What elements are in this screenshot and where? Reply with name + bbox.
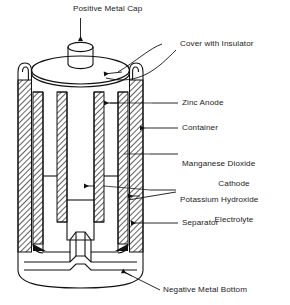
label-separator: Separator (182, 218, 218, 228)
label-negative-metal-bottom: Negative Metal Bottom (163, 285, 247, 295)
label-electrolyte-line-1: Potassium Hydroxide (180, 195, 288, 205)
battery-diagram-page: Positive Metal Cap Cover with Insulator … (0, 0, 290, 305)
anode-gel-chamber (43, 92, 118, 252)
leader-negative-bottom-arrow (122, 271, 132, 276)
battery-body (18, 42, 143, 288)
inner-cylinder-front-edges (33, 92, 128, 222)
label-cover-with-insulator: Cover with Insulator (180, 39, 254, 49)
cathode-layer (33, 92, 128, 244)
label-container: Container (182, 123, 218, 133)
label-positive-metal-cap: Positive Metal Cap (73, 4, 142, 14)
cover-disc (32, 56, 130, 87)
separator-layer (57, 92, 104, 222)
base-seal-wedges (33, 244, 128, 251)
label-cathode-line-1: Manganese Dioxide (182, 159, 286, 169)
label-zinc-anode: Zinc Anode (182, 98, 224, 108)
